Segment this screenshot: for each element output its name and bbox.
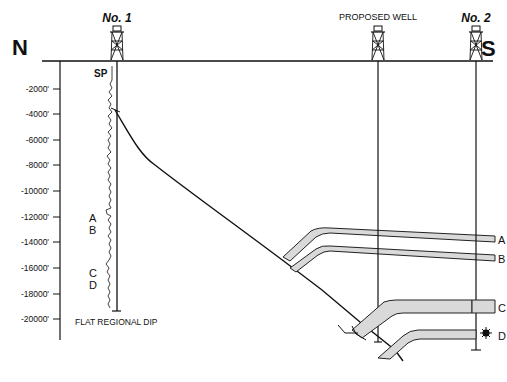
- depth-tick-label: -12000': [21, 212, 49, 222]
- bed-d: [378, 330, 476, 359]
- depth-tick-label: -6000': [26, 135, 50, 145]
- depth-tick-label: -14000': [21, 237, 49, 247]
- derrick-icon: [110, 26, 124, 60]
- depth-tick-label: -20000': [21, 314, 49, 324]
- well-1-name: No. 1: [102, 11, 132, 25]
- sp-log-curve: [106, 66, 112, 308]
- oil-show-icon: [480, 327, 492, 339]
- horizon-label-a: A: [498, 234, 506, 246]
- horizon-label-c: C: [498, 302, 506, 314]
- north-label: N: [12, 35, 28, 60]
- depth-tick-label: -8000': [26, 160, 50, 170]
- bed-b: [290, 246, 495, 272]
- log-horizon-c: C: [89, 267, 97, 279]
- well-2-name: No. 2: [461, 11, 491, 25]
- south-label: S: [481, 36, 496, 61]
- proposed-well-name: PROPOSED WELL: [339, 12, 417, 22]
- log-horizon-d: D: [89, 279, 97, 291]
- depth-tick-label: -2000': [26, 84, 50, 94]
- horizon-label-b: B: [498, 253, 505, 265]
- horizon-label-d: D: [498, 330, 506, 342]
- sp-log-label: SP: [94, 68, 108, 79]
- depth-ticks: -2000' -4000' -6000' -8000' -10000' -120…: [21, 84, 60, 324]
- log-horizon-b: B: [89, 224, 96, 236]
- derrick-icon: [371, 26, 385, 60]
- bed-c-east: [472, 300, 495, 313]
- depth-tick-label: -4000': [26, 109, 50, 119]
- geologic-cross-section: N S No. 1 PROPOSED WELL No. 2 -2000' -40…: [0, 0, 507, 382]
- depth-tick-label: -18000': [21, 289, 49, 299]
- depth-tick-label: -16000': [21, 263, 49, 273]
- depth-tick-label: -10000': [21, 186, 49, 196]
- log-horizon-a: A: [89, 212, 97, 224]
- flat-regional-dip-note: FLAT REGIONAL DIP: [75, 317, 158, 327]
